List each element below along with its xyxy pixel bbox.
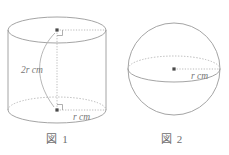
- cylinder-bottom-center-dot: [55, 108, 58, 111]
- figure-2-panel: r cm 図 2: [115, 0, 229, 155]
- cylinder-radius-label: r cm: [73, 112, 90, 122]
- figure-1-panel: 2r cm r cm 図 1: [0, 0, 115, 155]
- figure-1-caption: 図 1: [0, 130, 115, 146]
- figure-sheet: 2r cm r cm 図 1 r cm 図 2: [0, 0, 229, 155]
- sphere-center-dot: [172, 67, 175, 70]
- cylinder-height-label: 2r cm: [21, 65, 43, 75]
- sphere-radius-label: r cm: [191, 71, 208, 81]
- sphere-equator-back-arc: [128, 56, 220, 69]
- cylinder-drawing: 2r cm r cm: [0, 0, 115, 130]
- cylinder-bottom-front-arc: [8, 110, 106, 123]
- cylinder-top-center-dot: [55, 28, 58, 31]
- sphere-drawing: r cm: [115, 0, 229, 130]
- figure-2-caption: 図 2: [115, 130, 229, 146]
